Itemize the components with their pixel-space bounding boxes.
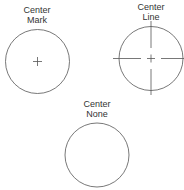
circle-center-none [65,123,129,187]
diagram-canvas [0,0,184,190]
circle-center-line [113,21,184,95]
circle-center-mark [6,30,70,94]
